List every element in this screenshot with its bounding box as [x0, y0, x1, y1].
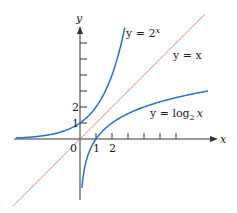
- legend-exp: y = 2x: [125, 26, 160, 40]
- x-tick-label-1: 1: [93, 142, 100, 155]
- chart: x y 0 1 2 1 2 y = 2x y = x y = log2x: [0, 0, 237, 213]
- x-axis-arrow-icon: [210, 136, 218, 142]
- x-ticks: [96, 133, 176, 139]
- curve-exp: [16, 28, 125, 138]
- y-tick-label-2: 2: [72, 101, 79, 114]
- legend-identity: y = x: [172, 49, 202, 62]
- y-axis-arrow-icon: [77, 26, 83, 34]
- y-tick-label-1: 1: [72, 117, 79, 130]
- x-axis-label: x: [220, 133, 227, 146]
- origin-label: 0: [70, 142, 77, 155]
- legend-log: y = log2x: [149, 107, 204, 122]
- y-ticks: [80, 43, 87, 123]
- labels: x y 0 1 2 1 2 y = 2x y = x y = log2x: [70, 12, 227, 155]
- x-tick-label-2: 2: [109, 142, 116, 155]
- y-axis-label: y: [75, 12, 83, 25]
